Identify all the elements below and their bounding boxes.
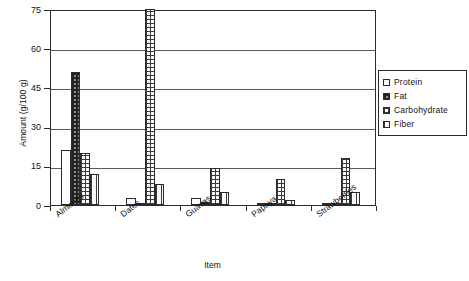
legend-swatch-icon <box>383 121 390 128</box>
bar-almonds-fat <box>71 72 81 205</box>
y-axis-tick-label: 0 <box>11 202 41 211</box>
x-axis-tick <box>376 206 377 211</box>
bar-papaya-fiber <box>285 200 295 205</box>
gridline <box>51 50 375 51</box>
x-axis-tick <box>246 206 247 211</box>
plot-area <box>50 10 376 206</box>
x-axis-title: Item <box>50 260 375 270</box>
legend-label: Fat <box>394 92 407 101</box>
bar-almonds-protein <box>61 150 71 205</box>
bar-almonds-fiber <box>90 174 100 205</box>
legend-label: Carbohydrate <box>394 106 448 115</box>
bar-dates-fiber <box>155 184 165 205</box>
x-axis-tick <box>180 206 181 211</box>
legend-label: Protein <box>394 78 422 87</box>
legend: ProteinFatCarbohydrateFiber <box>378 70 467 136</box>
gridline <box>51 129 375 130</box>
x-axis-tick <box>115 206 116 211</box>
y-axis-tick-label: 75 <box>11 6 41 15</box>
legend-item-protein: Protein <box>383 75 463 89</box>
legend-label: Fiber <box>394 120 414 129</box>
bar-guavas-fiber <box>220 192 230 205</box>
bar-dates-carbohydrate <box>145 9 155 205</box>
y-axis-tick-label: 60 <box>11 45 41 54</box>
bar-chart: Amount (g/100 g) Item 01530456075 Almond… <box>0 0 469 281</box>
legend-item-carbohydrate: Carbohydrate <box>383 103 463 117</box>
legend-item-fiber: Fiber <box>383 117 463 131</box>
legend-swatch-icon <box>383 93 390 100</box>
legend-item-fat: Fat <box>383 89 463 103</box>
x-axis-tick <box>311 206 312 211</box>
x-axis-tick <box>50 206 51 211</box>
legend-swatch-icon <box>383 107 390 114</box>
y-axis-tick-label: 30 <box>11 123 41 132</box>
y-axis-tick-label: 15 <box>11 162 41 171</box>
gridline <box>51 89 375 90</box>
y-axis-tick-label: 45 <box>11 84 41 93</box>
legend-swatch-icon <box>383 79 390 86</box>
